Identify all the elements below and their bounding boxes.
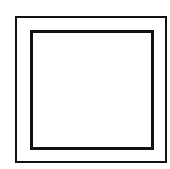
inner-square bbox=[30, 30, 154, 150]
